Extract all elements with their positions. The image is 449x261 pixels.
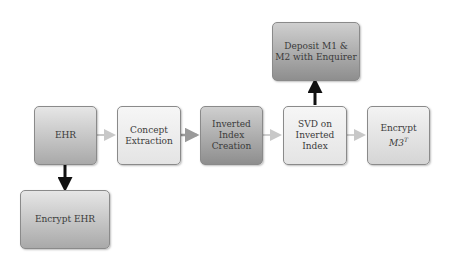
node-encrypt-ehr: Encrypt EHR [20,190,110,249]
node-svd: SVD on Inverted Index [283,106,347,165]
node-encrypt-ehr-label: Encrypt EHR [35,214,95,225]
node-inverted-index-creation: Inverted Index Creation [200,106,263,165]
node-concept-extraction: Concept Extraction [117,106,181,165]
node-ehr-label: EHR [55,130,76,141]
node-deposit-label: Deposit M1 & M2 with Enquirer [275,41,356,63]
node-svd-label: SVD on Inverted Index [296,119,335,152]
node-encrypt-m3t: Encrypt M3T [367,106,430,165]
node-concept-extraction-label: Concept Extraction [125,125,173,147]
node-encrypt-m3t-label: Encrypt M3T [370,123,427,149]
node-encrypt-m3t-prefix: Encrypt [380,123,416,133]
node-encrypt-m3t-math: M3 [389,138,404,148]
node-encrypt-m3t-superscript: T [404,136,408,143]
node-inverted-index-creation-label: Inverted Index Creation [212,119,252,152]
node-deposit: Deposit M1 & M2 with Enquirer [272,22,360,81]
node-ehr: EHR [34,106,97,165]
